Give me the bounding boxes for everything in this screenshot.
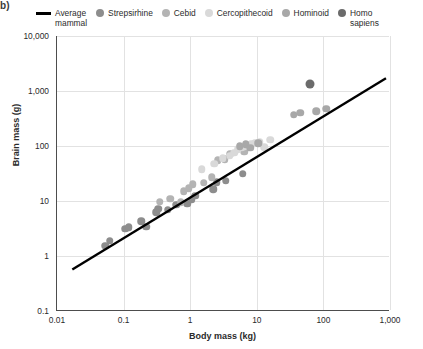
y-tick-label: 1 xyxy=(44,251,49,261)
data-point xyxy=(200,179,208,187)
x-tick-label: 0.01 xyxy=(49,315,65,325)
data-point xyxy=(312,107,320,115)
data-point xyxy=(154,205,162,213)
chart-legend: Average mammalStrepsirhineCebidCercopith… xyxy=(36,8,422,28)
chart-figure: b) Average mammalStrepsirhineCebidCercop… xyxy=(0,0,423,349)
y-gridline xyxy=(57,201,389,202)
y-gridline xyxy=(57,36,389,37)
y-tick-label: 1,000 xyxy=(28,86,49,96)
data-point xyxy=(208,174,216,182)
y-tick-label: 0.1 xyxy=(37,306,49,316)
x-tick-label: 0.1 xyxy=(118,315,130,325)
y-gridline xyxy=(57,91,389,92)
x-gridline xyxy=(390,36,391,310)
data-point xyxy=(254,140,262,148)
x-axis-label: Body mass (kg) xyxy=(56,331,389,341)
data-point xyxy=(156,198,164,206)
data-point xyxy=(192,192,200,200)
legend-dot-swatch-hominoid xyxy=(282,9,290,17)
data-point xyxy=(189,181,197,189)
legend-dot-swatch-cebid xyxy=(162,9,170,17)
legend-item-cebid: Cebid xyxy=(162,8,196,18)
legend-item-strepsirhine: Strepsirhine xyxy=(96,8,153,18)
data-point xyxy=(297,109,305,117)
x-tick-label: 1 xyxy=(188,315,193,325)
legend-dot-swatch-homo-sapiens xyxy=(338,9,346,17)
y-gridline xyxy=(57,256,389,257)
legend-dot-swatch-cercopithecoid xyxy=(205,9,213,17)
legend-item-hominoid: Hominoid xyxy=(282,8,329,18)
data-point xyxy=(106,237,114,245)
x-gridline xyxy=(124,36,125,310)
y-gridline xyxy=(57,146,389,147)
legend-label-hominoid: Hominoid xyxy=(294,8,329,18)
x-tick-label: 100 xyxy=(316,315,330,325)
data-point xyxy=(239,170,247,178)
data-point xyxy=(247,144,255,152)
data-point xyxy=(267,136,275,144)
legend-line-swatch-average-mammal xyxy=(36,12,51,15)
y-axis-label: Brain mass (g) xyxy=(11,95,21,175)
data-point xyxy=(125,224,133,232)
data-point xyxy=(209,185,217,193)
plot-frame: 0.010.11101001,0000.11101001,00010,000 xyxy=(56,36,389,311)
data-point xyxy=(164,206,172,214)
legend-dot-swatch-strepsirhine xyxy=(96,9,104,17)
data-point xyxy=(222,177,230,185)
plot-area: 0.010.11101001,0000.11101001,00010,000 xyxy=(57,36,389,310)
figure-panel-label: b) xyxy=(0,0,10,11)
data-point xyxy=(177,198,185,206)
data-point xyxy=(211,160,219,168)
data-point xyxy=(198,165,206,173)
y-tick-label: 100 xyxy=(35,141,49,151)
data-point xyxy=(322,105,330,113)
x-gridline xyxy=(257,36,258,310)
legend-item-average-mammal: Average mammal xyxy=(36,8,87,28)
legend-item-cercopithecoid: Cercopithecoid xyxy=(205,8,273,18)
x-tick-label: 10 xyxy=(252,315,261,325)
x-gridline xyxy=(323,36,324,310)
x-tick-label: 1,000 xyxy=(380,315,401,325)
data-point xyxy=(143,223,151,231)
y-tick-label: 10,000 xyxy=(23,31,49,41)
x-gridline xyxy=(190,36,191,310)
data-point xyxy=(305,80,314,89)
legend-label-cercopithecoid: Cercopithecoid xyxy=(217,8,273,18)
legend-label-homo-sapiens: Homo sapiens xyxy=(350,8,379,28)
legend-label-cebid: Cebid xyxy=(174,8,196,18)
y-tick-label: 10 xyxy=(40,196,49,206)
legend-label-strepsirhine: Strepsirhine xyxy=(108,8,153,18)
data-point xyxy=(166,195,174,203)
legend-label-average-mammal: Average mammal xyxy=(55,8,87,28)
legend-item-homo-sapiens: Homo sapiens xyxy=(338,8,379,28)
